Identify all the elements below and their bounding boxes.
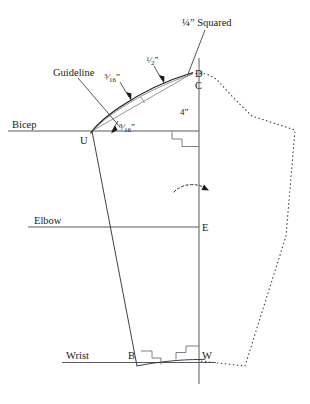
cap-mid-arrow-head [159,75,165,84]
guideline-label: Guideline [53,67,95,78]
point-label-b: B [128,350,135,361]
rotated-sleeve-outline [196,73,295,366]
cap-upper-arrow-head [126,92,132,101]
pattern-diagram: Bicep Elbow Wrist ¼” Squared Guideline 4… [0,0,310,404]
diagram-canvas: Bicep Elbow Wrist ¼” Squared Guideline 4… [0,0,310,404]
measure-cap-lower: 3⁄16” [119,122,135,135]
square-mark-wrist-right [176,346,199,360]
measure-cap-lower-unit: ” [131,122,135,132]
wrist-label: Wrist [66,350,89,361]
quarter-squared-label: ¼” Squared [182,17,232,28]
square-mark-bicep [172,132,199,147]
point-label-w: W [202,350,212,361]
measure-cap-mid-unit: ” [155,55,159,65]
point-label-e: E [202,222,208,233]
underarm-seam [92,131,137,366]
rotation-arrow-head [202,185,210,191]
rotation-arrow-arc [174,185,205,192]
measure-cap-upper: 3⁄16” [104,72,120,85]
elbow-label: Elbow [34,215,62,226]
point-label-c: C [195,80,202,91]
sleeve-cap-inner-line [92,74,194,133]
cap-depth-label: 4” [180,107,189,117]
guideline-leader-line [78,78,120,127]
measure-cap-mid: 1⁄2” [146,55,159,68]
point-label-d: D [195,68,203,79]
point-label-u: U [80,135,88,146]
measure-cap-upper-unit: ” [116,72,120,82]
bicep-label: Bicep [12,119,37,130]
